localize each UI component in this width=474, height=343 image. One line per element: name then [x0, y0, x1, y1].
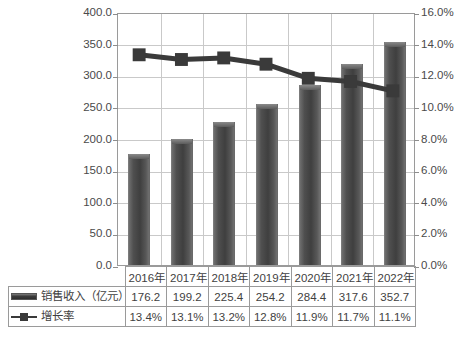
table-column-header: 2021年 — [333, 267, 375, 287]
left-axis-tick-label: 150.0 — [52, 165, 112, 177]
left-axis-tick-label: 200.0 — [52, 134, 112, 146]
right-axis-tick-label: 0.0% — [421, 260, 474, 272]
right-axis-tick-label: 6.0% — [421, 165, 474, 177]
right-axis-tick-label: 14.0% — [421, 39, 474, 51]
table-row: 增长率13.4%13.1%13.2%12.8%11.9%11.7%11.1% — [9, 307, 416, 327]
right-axis-tick-label: 4.0% — [421, 197, 474, 209]
legend-series-label: 增长率 — [41, 311, 74, 323]
line-marker: 2018年 13.2% — [217, 51, 230, 64]
right-axis-tick — [414, 172, 419, 173]
left-axis-tick-label: 50.0 — [52, 228, 112, 240]
legend-line-marker-icon — [11, 312, 37, 321]
legend-row-header: 增长率 — [9, 307, 126, 327]
line-marker: 2020年 11.9% — [302, 72, 315, 85]
table-cell: 352.7 — [374, 287, 416, 307]
figure-caption — [0, 332, 474, 343]
right-axis-tick — [414, 235, 419, 236]
chart-container: 0.050.0100.0150.0200.0250.0300.0350.0400… — [0, 0, 474, 343]
table-cell: 199.2 — [167, 287, 209, 307]
left-axis-tick-label: 100.0 — [52, 197, 112, 209]
table-column-header: 2018年 — [208, 267, 250, 287]
table-header-row: 2016年2017年2018年2019年2020年2021年2022年 — [9, 267, 416, 287]
table-cell: 11.9% — [291, 307, 333, 327]
left-axis-tick-label: 300.0 — [52, 70, 112, 82]
table-cell: 11.1% — [374, 307, 416, 327]
table-cell: 284.4 — [291, 287, 333, 307]
table-cell: 13.1% — [167, 307, 209, 327]
table-cell: 176.2 — [125, 287, 167, 307]
right-axis-tick — [414, 203, 419, 204]
table-cell: 12.8% — [250, 307, 292, 327]
right-axis: 0.0%2.0%4.0%6.0%8.0%10.0%12.0%14.0%16.0% — [421, 13, 474, 266]
table-column-header: 2022年 — [374, 267, 416, 287]
line-marker: 2016年 13.4% — [133, 48, 146, 61]
table-column-header: 2016年 — [125, 267, 167, 287]
left-axis: 0.050.0100.0150.0200.0250.0300.0350.0400… — [50, 13, 112, 266]
table-column-header: 2019年 — [250, 267, 292, 287]
legend-series-label: 销售收入（亿元） — [41, 291, 125, 303]
table-row: 销售收入（亿元）176.2199.2225.4254.2284.4317.635… — [9, 287, 416, 307]
legend-row-header: 销售收入（亿元） — [9, 287, 126, 307]
table-cell: 11.7% — [333, 307, 375, 327]
left-axis-tick-label: 250.0 — [52, 102, 112, 114]
table-cell: 254.2 — [250, 287, 292, 307]
table-column-header: 2017年 — [167, 267, 209, 287]
right-axis-tick-label: 2.0% — [421, 228, 474, 240]
line-series: 2016年 13.4%2017年 13.1%2018年 13.2%2019年 1… — [118, 14, 414, 265]
table-corner-cell — [9, 267, 126, 287]
line-marker: 2019年 12.8% — [260, 58, 273, 71]
table-cell: 225.4 — [208, 287, 250, 307]
right-axis-tick-label: 12.0% — [421, 70, 474, 82]
legend-bar-marker-icon — [11, 293, 37, 300]
plot-area: 2016年 13.4%2017年 13.1%2018年 13.2%2019年 1… — [117, 13, 415, 266]
right-axis-tick — [414, 45, 419, 46]
line-marker: 2017年 13.1% — [175, 53, 188, 66]
line-marker: 2022年 11.1% — [386, 84, 399, 97]
right-axis-tick — [414, 77, 419, 78]
right-axis-tick — [414, 140, 419, 141]
table-cell: 317.6 — [333, 287, 375, 307]
table-cell: 13.4% — [125, 307, 167, 327]
right-axis-tick-label: 16.0% — [421, 7, 474, 19]
left-axis-tick-label: 400.0 — [52, 7, 112, 19]
table-cell: 13.2% — [208, 307, 250, 327]
right-axis-tick-label: 8.0% — [421, 134, 474, 146]
table-column-header: 2020年 — [291, 267, 333, 287]
right-axis-tick — [414, 14, 419, 15]
data-table: 2016年2017年2018年2019年2020年2021年2022年销售收入（… — [8, 266, 416, 327]
right-axis-tick-label: 10.0% — [421, 102, 474, 114]
right-axis-tick — [414, 108, 419, 109]
line-marker: 2021年 11.7% — [344, 75, 357, 88]
left-axis-tick-label: 350.0 — [52, 39, 112, 51]
